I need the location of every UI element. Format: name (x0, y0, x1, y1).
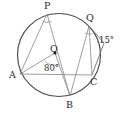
chord-AC-segment (20, 74, 92, 75)
point-label-p: P (44, 1, 51, 11)
point-label-c: C (90, 77, 97, 87)
geometry-canvas (0, 0, 121, 116)
center-label-o: O (50, 44, 58, 54)
chord-QB-segment (70, 26, 89, 96)
angle-arc-at-Q (85, 33, 93, 34)
geometry-figure: P Q C B A O 80° 15° (0, 0, 121, 116)
chord-PA-segment (20, 14, 47, 74)
angle-label-80-degrees: 80° (44, 64, 59, 73)
point-label-b: B (66, 100, 73, 110)
chord-QC-segment (89, 26, 92, 75)
circle-outline (18, 14, 101, 97)
angle-label-15-degrees: 15° (99, 36, 114, 45)
point-label-q: Q (86, 13, 94, 23)
chord-PB-segment (47, 14, 70, 96)
point-label-a: A (9, 70, 16, 80)
